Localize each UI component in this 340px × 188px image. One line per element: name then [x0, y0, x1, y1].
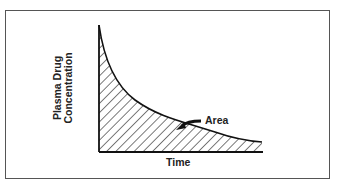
area-under-curve — [99, 20, 264, 153]
y-axis-label-line-2: Concentration — [63, 52, 74, 123]
area-annotation-label: Area — [205, 114, 228, 126]
x-axis-label: Time — [166, 156, 190, 168]
y-axis-label: Plasma Drug Concentration — [52, 52, 74, 123]
